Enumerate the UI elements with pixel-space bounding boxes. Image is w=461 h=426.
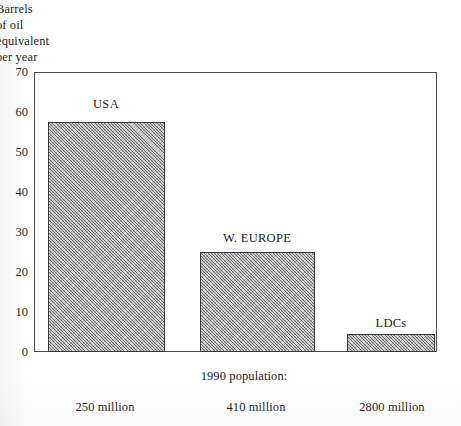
y-tick-20: 20: [16, 266, 29, 279]
population-value-ldcs: 2800 million: [359, 401, 424, 414]
y-tick-70: 70: [16, 66, 29, 79]
bars-layer: [34, 72, 437, 352]
bar-usa[interactable]: [48, 122, 165, 352]
bar-label-usa: USA: [93, 98, 119, 111]
y-tick-30: 30: [16, 226, 29, 239]
y-tick-50: 50: [16, 146, 29, 159]
bar-w-europe[interactable]: [200, 252, 315, 352]
bar-ldcs[interactable]: [347, 334, 435, 352]
y-tick-0: 0: [22, 346, 28, 359]
population-value-w-europe: 410 million: [226, 401, 285, 414]
population-heading: 1990 population:: [201, 370, 288, 383]
y-tick-10: 10: [16, 306, 29, 319]
population-value-usa: 250 million: [75, 401, 134, 414]
bar-label-w-europe: W. EUROPE: [223, 232, 291, 245]
y-axis-tick-labels: 70 60 50 40 30 20 10 0: [0, 0, 34, 426]
y-tick-60: 60: [16, 106, 29, 119]
bar-chart: Barrels of oil equivalent per year 70 60…: [0, 0, 461, 426]
bar-label-ldcs: LDCs: [375, 317, 406, 330]
y-tick-40: 40: [16, 186, 29, 199]
